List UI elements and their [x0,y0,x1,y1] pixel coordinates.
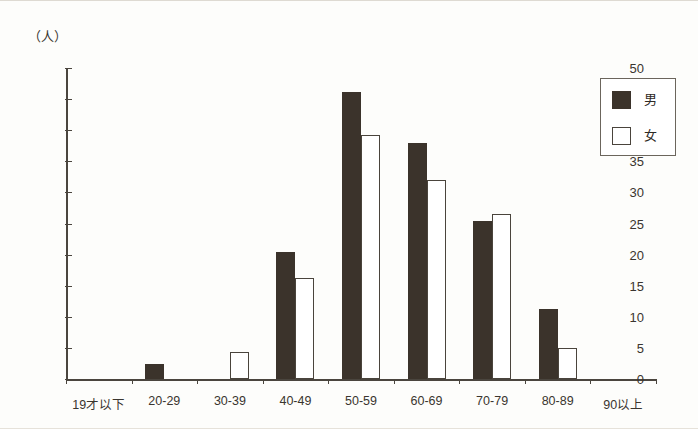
bar-male [408,143,427,379]
plot-area: 05101520253035404550 19才以下20-2930-3940-4… [66,68,656,380]
bars-layer [66,68,656,379]
legend-swatch-female-icon [612,127,631,145]
x-tick-label: 19才以下 [72,394,125,413]
x-tick-mark [656,379,657,384]
x-tick-mark [66,379,67,384]
bar-male [539,309,558,379]
x-tick-mark [197,379,198,384]
legend-item-female: 女 [601,123,677,149]
x-tick-label: 30-39 [214,394,246,408]
x-tick-label: 40-49 [279,394,311,408]
x-tick-mark [590,379,591,384]
x-tick-mark [525,379,526,384]
x-axis-line [66,379,656,381]
x-tick-label: 20-29 [148,394,180,408]
bar-female [361,135,380,379]
x-tick-label: 80-89 [542,394,574,408]
x-tick-mark [394,379,395,384]
bar-male [473,221,492,379]
legend-label-female: 女 [644,127,657,145]
bar-female [230,352,249,379]
bar-male [276,252,295,380]
bar-female [492,214,511,379]
legend-label-male: 男 [644,91,657,109]
bar-female [295,278,314,379]
x-tick-mark [263,379,264,384]
bar-female [558,348,577,379]
bar-female [427,180,446,379]
x-tick-label: 90以上 [603,394,643,413]
legend-swatch-male-icon [612,91,631,109]
x-tick-label: 50-59 [345,394,377,408]
x-tick-mark [459,379,460,384]
legend-item-male: 男 [601,87,677,113]
bar-male [145,364,164,379]
y-axis-unit-label: （人） [28,26,67,45]
bar-male [342,92,361,379]
page-edge-top [0,0,698,1]
x-tick-label: 60-69 [411,394,443,408]
bar-chart-figure: （人） 05101520253035404550 19才以下20-2930-39… [0,0,698,429]
x-tick-mark [132,379,133,384]
x-tick-label: 70-79 [476,394,508,408]
chart-legend: 男 女 [600,78,676,156]
x-tick-mark [328,379,329,384]
